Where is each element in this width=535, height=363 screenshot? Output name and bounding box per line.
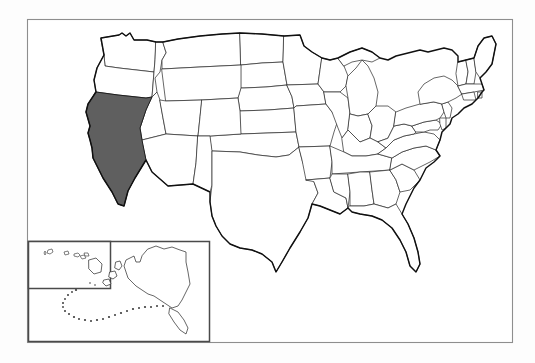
us-map-svg[interactable]	[0, 0, 535, 363]
state-alabama[interactable]	[348, 172, 374, 206]
state-nebraska[interactable]	[238, 85, 294, 111]
state-north-dakota[interactable]	[240, 33, 284, 65]
state-utah[interactable]	[160, 100, 202, 136]
map-page: United States map with California highli…	[0, 0, 535, 363]
state-south-dakota[interactable]	[241, 62, 287, 88]
us-map-figure	[0, 0, 535, 363]
state-wyoming[interactable]	[162, 65, 241, 101]
insets-group	[29, 242, 210, 342]
state-kansas[interactable]	[240, 108, 296, 134]
state-colorado[interactable]	[198, 98, 241, 136]
